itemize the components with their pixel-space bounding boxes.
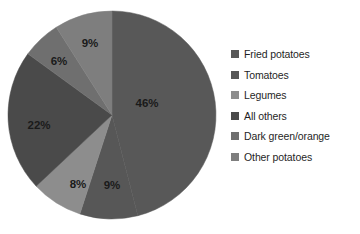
legend-item-label: Tomatoes [244,70,289,81]
pie-chart-plot-area: 46%9%8%22%6%9% [0,0,228,234]
legend-item[interactable]: Other potatoes [231,147,360,168]
legend-item-label: All others [244,111,287,122]
legend-item[interactable]: Dark green/orange [231,126,360,147]
pie-slice-data-label: 22% [27,119,50,131]
legend-item-label: Fried potatoes [244,49,310,60]
legend-swatch-icon [231,91,239,99]
legend-swatch-icon [231,50,239,58]
pie-slice-data-label: 46% [135,97,158,109]
legend-item[interactable]: Legumes [231,85,360,106]
legend-item-label: Legumes [244,90,287,101]
pie-slice-data-label: 9% [82,37,99,49]
legend-swatch-icon [231,132,239,140]
pie-chart-figure: 46%9%8%22%6%9% Fried potatoesTomatoesLeg… [0,0,360,234]
legend-item[interactable]: All others [231,106,360,127]
pie-slice-data-label: 9% [104,179,121,191]
legend-item-label: Dark green/orange [244,131,330,142]
chart-legend: Fried potatoesTomatoesLegumesAll othersD… [231,44,360,167]
pie-chart-svg: 46%9%8%22%6%9% [0,0,228,234]
legend-item[interactable]: Tomatoes [231,65,360,86]
legend-item[interactable]: Fried potatoes [231,44,360,65]
pie-slice-data-label: 8% [70,178,87,190]
legend-swatch-icon [231,153,239,161]
legend-swatch-icon [231,112,239,120]
legend-item-label: Other potatoes [244,152,312,163]
pie-slice-data-label: 6% [51,55,68,67]
legend-swatch-icon [231,71,239,79]
